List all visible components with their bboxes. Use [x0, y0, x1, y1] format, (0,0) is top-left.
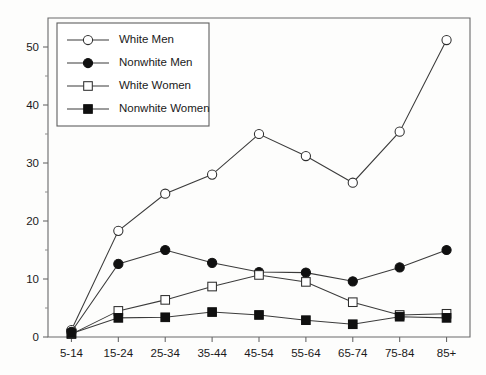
x-tick-label: 45-54 [244, 347, 274, 359]
y-tick-label: 10 [26, 273, 39, 285]
x-tick-label: 35-44 [197, 347, 227, 359]
data-point-marker [301, 151, 310, 160]
data-point-marker [114, 226, 123, 235]
chart-svg: 01020304050 5-1415-2425-3435-4445-5455-6… [0, 0, 486, 375]
data-point-marker [348, 277, 357, 286]
x-tick-label: 15-24 [104, 347, 134, 359]
legend-item-label: Nonwhite Women [119, 102, 210, 114]
data-point-marker [442, 35, 451, 44]
data-point-marker [208, 308, 217, 317]
x-tick-label: 75-84 [385, 347, 415, 359]
data-point-marker [395, 263, 404, 272]
legend-marker-icon [83, 35, 92, 44]
data-point-marker [395, 312, 404, 321]
data-point-marker [348, 178, 357, 187]
x-tick-label: 85+ [437, 347, 457, 359]
legend-item-label: White Men [119, 33, 174, 45]
x-tick-label: 5-14 [60, 347, 84, 359]
data-point-marker [114, 259, 123, 268]
data-point-marker [255, 271, 264, 280]
data-point-marker [114, 314, 123, 323]
data-point-marker [348, 298, 357, 307]
legend-item-label: Nonwhite Men [119, 56, 193, 68]
x-tick-label: 65-74 [338, 347, 368, 359]
y-tick-label: 0 [33, 331, 39, 343]
line-chart-figure: 01020304050 5-1415-2425-3435-4445-5455-6… [0, 0, 486, 375]
data-point-marker [208, 170, 217, 179]
y-tick-label: 30 [26, 157, 39, 169]
x-tick-label: 25-34 [151, 347, 181, 359]
y-tick-label: 20 [26, 215, 39, 227]
data-point-marker [442, 314, 451, 323]
legend-item-label: White Women [119, 79, 191, 91]
data-point-marker [442, 245, 451, 254]
data-point-marker [348, 320, 357, 329]
data-point-marker [301, 268, 310, 277]
data-point-marker [161, 313, 170, 322]
data-point-marker [208, 258, 217, 267]
data-point-marker [161, 296, 170, 305]
data-point-marker [395, 127, 404, 136]
data-point-marker [255, 311, 264, 320]
y-tick-label: 50 [26, 41, 39, 53]
legend-marker-icon [83, 58, 92, 67]
data-point-marker [161, 189, 170, 198]
y-tick-label: 40 [26, 99, 39, 111]
data-point-marker [302, 278, 311, 287]
legend-marker-icon [84, 105, 93, 114]
x-tick-label: 55-64 [291, 347, 321, 359]
data-point-marker [254, 129, 263, 138]
data-point-marker [161, 245, 170, 254]
legend-marker-icon [84, 82, 93, 91]
chart-legend: White MenNonwhite MenWhite WomenNonwhite… [57, 23, 210, 126]
data-point-marker [67, 329, 76, 338]
data-point-marker [208, 282, 217, 291]
data-point-marker [302, 316, 311, 325]
